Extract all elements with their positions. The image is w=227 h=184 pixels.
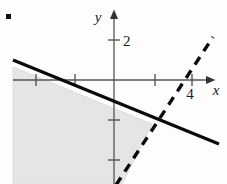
y-tick-label-2: 2	[123, 33, 131, 49]
problem-marker-dot	[6, 14, 11, 19]
x-tick-label-4: 4	[186, 86, 194, 102]
shaded-solution-region	[13, 67, 152, 184]
x-axis-label: x	[212, 82, 220, 98]
y-axis-label: y	[93, 9, 102, 25]
graph-figure: y x 2 4	[0, 0, 227, 184]
coordinate-plane-svg: y x 2 4	[0, 0, 227, 184]
